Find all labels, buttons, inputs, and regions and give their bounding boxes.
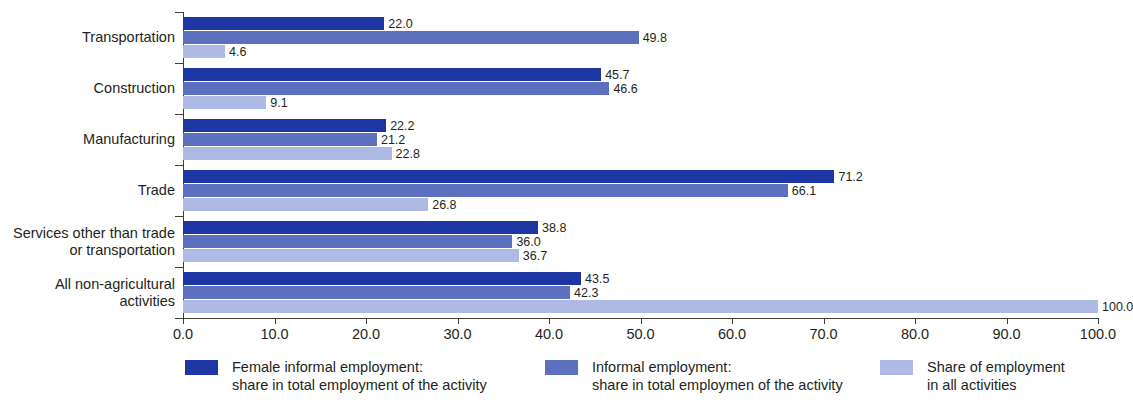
bar-series-1[interactable] [183, 286, 570, 299]
x-axis-tick [732, 318, 733, 324]
bar-row: 66.1 [183, 184, 1098, 197]
bar-value-label: 45.7 [601, 68, 629, 81]
category-label: All non-agriculturalactivities [7, 276, 183, 310]
bar-value-label: 43.5 [581, 272, 609, 285]
bar-series-2[interactable] [183, 249, 519, 262]
bar-series-1[interactable] [183, 184, 788, 197]
x-axis-tick-label: 20.0 [352, 326, 380, 342]
bar-group: 71.266.126.8 [183, 170, 1098, 212]
bar-row: 36.7 [183, 249, 1098, 262]
bar-group: 22.049.84.6 [183, 17, 1098, 59]
bar-series-1[interactable] [183, 133, 377, 146]
bar-value-label: 22.8 [392, 147, 420, 160]
bar-series-1[interactable] [183, 31, 639, 44]
category-label-line: All non-agricultural [7, 276, 175, 293]
category-label-line: Services other than trade [7, 225, 175, 242]
x-axis-tick-label: 10.0 [260, 326, 288, 342]
bar-row: 46.6 [183, 82, 1098, 95]
bar-value-label: 100.0 [1098, 300, 1133, 313]
x-axis-tick [915, 318, 916, 324]
bar-row: 22.0 [183, 17, 1098, 30]
legend-label-line2: share in total employmen of the activity [592, 376, 843, 394]
bar-row: 22.2 [183, 119, 1098, 132]
x-axis-tick-label: 0.0 [173, 326, 193, 342]
x-axis-tick-label: 100.0 [1080, 326, 1116, 342]
bar-series-0[interactable] [183, 272, 581, 285]
bar-row: 38.8 [183, 221, 1098, 234]
category-label: Trade [7, 182, 183, 199]
bar-group: 45.746.69.1 [183, 68, 1098, 110]
bar-row: 71.2 [183, 170, 1098, 183]
category-label-line: Trade [7, 182, 175, 199]
category-axis-labels: TransportationConstructionManufacturingT… [0, 12, 183, 318]
bar-row: 42.3 [183, 286, 1098, 299]
bar-row: 45.7 [183, 68, 1098, 81]
bar-value-label: 22.0 [384, 17, 412, 30]
x-axis-tick [641, 318, 642, 324]
legend-item[interactable]: Female informal employment:share in tota… [185, 358, 487, 394]
bar-value-label: 46.6 [609, 82, 637, 95]
bar-value-label: 42.3 [570, 286, 598, 299]
legend-label: Female informal employment:share in tota… [232, 358, 487, 394]
bar-value-label: 26.8 [428, 198, 456, 211]
bar-series-0[interactable] [183, 68, 601, 81]
x-axis-tick-label: 70.0 [809, 326, 837, 342]
legend-label-line1: Share of employment [927, 358, 1065, 376]
x-axis-tick [458, 318, 459, 324]
category-label-line: activities [7, 293, 175, 310]
bar-row: 100.0 [183, 300, 1098, 313]
bar-value-label: 49.8 [639, 31, 667, 44]
y-axis-tick [175, 165, 183, 166]
bar-series-0[interactable] [183, 119, 386, 132]
bar-series-0[interactable] [183, 170, 834, 183]
legend-label-line1: Female informal employment: [232, 358, 487, 376]
legend-swatch [880, 360, 913, 375]
legend-label-line2: in all activities [927, 376, 1065, 394]
x-axis-tick-label: 30.0 [443, 326, 471, 342]
bar-series-2[interactable] [183, 198, 428, 211]
bar-series-2[interactable] [183, 45, 225, 58]
x-axis-tick [1007, 318, 1008, 324]
x-axis-tick-label: 80.0 [901, 326, 929, 342]
bar-value-label: 4.6 [225, 45, 246, 58]
x-axis-tick-label: 40.0 [535, 326, 563, 342]
bar-value-label: 66.1 [788, 184, 816, 197]
y-axis-tick [175, 267, 183, 268]
legend-item[interactable]: Share of employmentin all activities [880, 358, 1065, 394]
bar-series-2[interactable] [183, 147, 392, 160]
legend-label-line2: share in total employment of the activit… [232, 376, 487, 394]
category-label-line: Construction [7, 80, 175, 97]
bar-series-2[interactable] [183, 96, 266, 109]
bar-series-1[interactable] [183, 235, 512, 248]
bar-group: 43.542.3100.0 [183, 272, 1098, 314]
category-label: Manufacturing [7, 131, 183, 148]
bar-row: 21.2 [183, 133, 1098, 146]
legend-label: Share of employmentin all activities [927, 358, 1065, 394]
legend-item[interactable]: Informal employment:share in total emplo… [545, 358, 843, 394]
y-axis-tick [175, 318, 183, 319]
bar-series-2[interactable] [183, 300, 1098, 313]
y-axis-tick [175, 114, 183, 115]
x-axis-tick [183, 318, 184, 324]
chart-legend: Female informal employment:share in tota… [0, 358, 1131, 408]
y-axis-tick [175, 216, 183, 217]
bar-value-label: 9.1 [266, 96, 287, 109]
bar-row: 9.1 [183, 96, 1098, 109]
category-label-line: Manufacturing [7, 131, 175, 148]
bar-group: 22.221.222.8 [183, 119, 1098, 161]
bar-row: 43.5 [183, 272, 1098, 285]
y-axis-tick [175, 12, 183, 13]
x-axis-tick [824, 318, 825, 324]
legend-label: Informal employment:share in total emplo… [592, 358, 843, 394]
category-label-line: Transportation [7, 29, 175, 46]
bar-series-1[interactable] [183, 82, 609, 95]
bar-row: 26.8 [183, 198, 1098, 211]
x-axis-tick-label: 90.0 [992, 326, 1020, 342]
bar-series-0[interactable] [183, 221, 538, 234]
bar-series-0[interactable] [183, 17, 384, 30]
bar-value-label: 38.8 [538, 221, 566, 234]
x-axis-tick [549, 318, 550, 324]
x-axis-tick [1098, 318, 1099, 324]
x-axis-tick-label: 50.0 [626, 326, 654, 342]
